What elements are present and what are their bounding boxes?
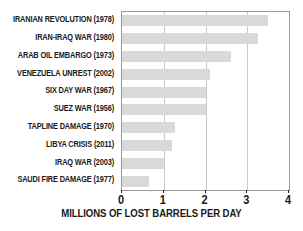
category-label-row: LIBYA CRISIS (2011) — [0, 136, 118, 154]
category-label-row: IRAQ WAR (2003) — [0, 153, 118, 171]
bar — [122, 176, 149, 187]
bar-row — [122, 65, 289, 83]
category-label: TAPLINE DAMAGE (1970) — [28, 122, 114, 131]
category-label: IRANIAN REVOLUTION (1978) — [13, 16, 114, 25]
category-label: LIBYA CRISIS (2011) — [46, 140, 114, 149]
bar-row — [122, 154, 289, 172]
bar-row — [122, 83, 289, 101]
category-label: VENEZUELA UNREST (2002) — [17, 69, 114, 78]
x-tick-label: 2 — [201, 192, 207, 206]
bar-row — [122, 137, 289, 155]
x-tick-label: 4 — [285, 192, 291, 206]
category-label-row: TAPLINE DAMAGE (1970) — [0, 118, 118, 136]
category-label-row: SAUDI FIRE DAMAGE (1977) — [0, 171, 118, 189]
bar-row — [122, 30, 289, 48]
x-axis-title: MILLIONS OF LOST BARRELS PER DAY — [0, 206, 303, 219]
category-label: IRAQ WAR (2003) — [55, 158, 114, 167]
x-tick-label: 0 — [118, 192, 124, 206]
category-label: SUEZ WAR (1956) — [54, 105, 114, 114]
bar — [122, 87, 206, 98]
bar — [122, 158, 164, 169]
category-label: SAUDI FIRE DAMAGE (1977) — [17, 176, 114, 185]
bar — [122, 104, 206, 115]
bar — [122, 51, 231, 62]
bar — [122, 33, 258, 44]
category-label: ARAB OIL EMBARGO (1973) — [18, 51, 114, 60]
category-label: IRAN-IRAQ WAR (1980) — [35, 33, 114, 42]
horizontal-bar-chart: IRANIAN REVOLUTION (1978)IRAN-IRAQ WAR (… — [0, 0, 303, 231]
category-label: SIX DAY WAR (1967) — [45, 87, 114, 96]
bar — [122, 140, 172, 151]
bars-layer — [122, 12, 289, 190]
bar — [122, 69, 210, 80]
bar-row — [122, 101, 289, 119]
x-tick-label: 1 — [160, 192, 166, 206]
bar-row — [122, 172, 289, 190]
category-label-row: SIX DAY WAR (1967) — [0, 82, 118, 100]
x-axis-tick-labels: 01234 — [121, 193, 288, 207]
bar-row — [122, 48, 289, 66]
bar-row — [122, 12, 289, 30]
category-label-row: VENEZUELA UNREST (2002) — [0, 64, 118, 82]
plot-area — [121, 11, 290, 191]
category-label-row: IRANIAN REVOLUTION (1978) — [0, 11, 118, 29]
bar — [122, 15, 268, 26]
bar — [122, 122, 175, 133]
bar-row — [122, 119, 289, 137]
x-tick-label: 3 — [243, 192, 249, 206]
category-label-row: IRAN-IRAQ WAR (1980) — [0, 29, 118, 47]
category-label-row: SUEZ WAR (1956) — [0, 100, 118, 118]
category-label-row: ARAB OIL EMBARGO (1973) — [0, 47, 118, 65]
category-axis: IRANIAN REVOLUTION (1978)IRAN-IRAQ WAR (… — [0, 11, 118, 189]
